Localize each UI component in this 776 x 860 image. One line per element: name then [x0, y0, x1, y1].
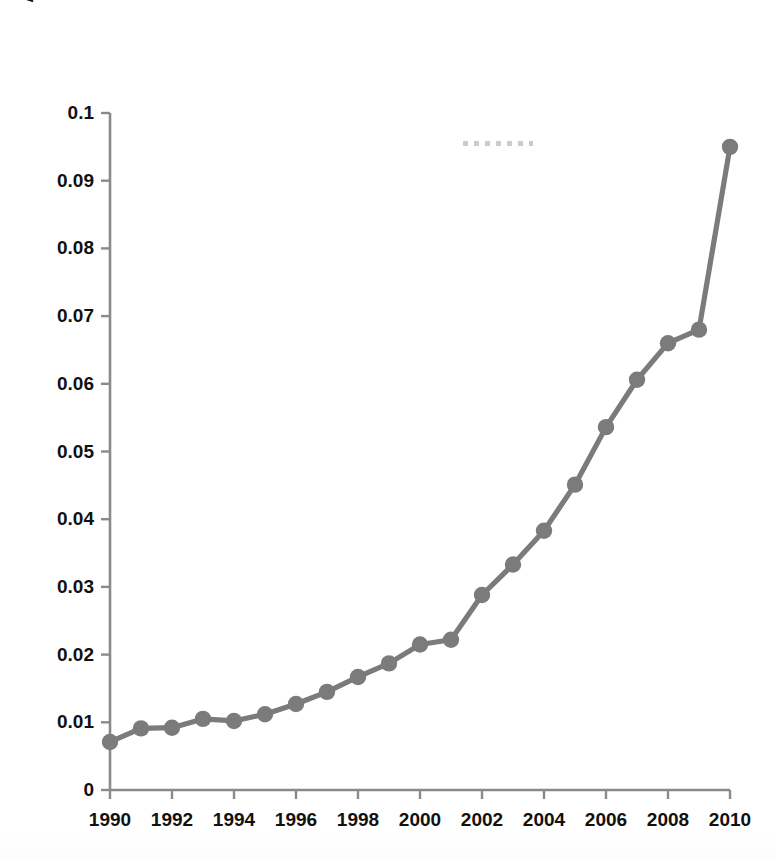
data-point-marker [319, 684, 335, 700]
data-point-marker [598, 419, 614, 435]
x-tick-label: 2000 [399, 809, 441, 831]
y-tick-label: 0 [0, 779, 94, 801]
data-point-marker [443, 632, 459, 648]
y-tick-label: 0.01 [0, 711, 94, 733]
data-line [110, 147, 730, 742]
data-point-marker [381, 655, 397, 671]
y-tick-label: 0.09 [0, 170, 94, 192]
x-tick-label: 2006 [585, 809, 627, 831]
data-point-marker [133, 720, 149, 736]
y-axis-ticks [101, 113, 110, 790]
data-point-marker [660, 335, 676, 351]
data-point-marker [691, 321, 707, 337]
x-tick-label: 1990 [89, 809, 131, 831]
data-point-marker [474, 587, 490, 603]
x-tick-label: 2002 [461, 809, 503, 831]
x-axis-ticks [110, 790, 730, 799]
data-point-marker [164, 720, 180, 736]
y-tick-label: 0.03 [0, 576, 94, 598]
x-tick-label: 2010 [709, 809, 751, 831]
x-tick-label: 1994 [213, 809, 255, 831]
x-tick-label: 2008 [647, 809, 689, 831]
data-point-marker [505, 556, 521, 572]
y-tick-label: 0.05 [0, 441, 94, 463]
data-point-marker [195, 711, 211, 727]
x-tick-label: 1998 [337, 809, 379, 831]
data-point-marker [412, 636, 428, 652]
y-tick-label: 0.1 [0, 102, 94, 124]
y-tick-label: 0.07 [0, 305, 94, 327]
x-tick-label: 2004 [523, 809, 565, 831]
data-point-marker [350, 669, 366, 685]
y-tick-label: 0.04 [0, 508, 94, 530]
axes [110, 113, 730, 790]
y-tick-label: 0.02 [0, 644, 94, 666]
data-point-marker [102, 734, 118, 750]
x-tick-label: 1996 [275, 809, 317, 831]
data-point-marker [536, 523, 552, 539]
plot-svg [0, 0, 776, 860]
y-tick-label: 0.06 [0, 373, 94, 395]
y-tick-label: 0.08 [0, 237, 94, 259]
data-point-marker [257, 706, 273, 722]
data-point-marker [226, 713, 242, 729]
chart-container: Analytics and Data Science Job Starters … [0, 0, 776, 860]
data-point-marker [629, 372, 645, 388]
data-point-marker [288, 696, 304, 712]
x-tick-label: 1992 [151, 809, 193, 831]
data-markers [102, 139, 738, 750]
data-point-marker [722, 139, 738, 155]
data-point-marker [567, 476, 583, 492]
